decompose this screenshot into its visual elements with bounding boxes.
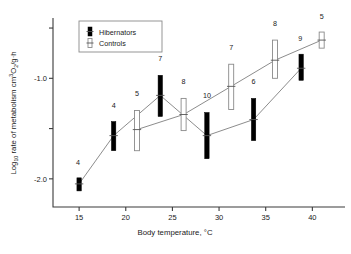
svg-text:Log10 rate of metabolism cm3O2: Log10 rate of metabolism cm3O2/g·h xyxy=(8,51,19,174)
metabolism-vs-body-temperature-chart: 152025303540-1.0-2.0 447106958785 Hibern… xyxy=(0,0,351,254)
x-axis-title-unit: °C xyxy=(204,228,213,237)
legend: Hibernators Controls xyxy=(79,21,162,52)
sample-size-label: 6 xyxy=(252,77,256,86)
figure-container: 152025303540-1.0-2.0 447106958785 Hibern… xyxy=(0,0,351,254)
y-axis-title-mid: rate of metabolism cm xyxy=(9,77,18,156)
data-bars-group xyxy=(75,32,326,191)
x-axis-title: Body temperature, °C xyxy=(137,228,212,237)
range-bar-filled xyxy=(299,54,303,80)
sample-size-label: 7 xyxy=(158,54,162,63)
legend-label-hibernators: Hibernators xyxy=(99,28,137,37)
sample-size-label: 4 xyxy=(112,101,116,110)
sample-size-label: 9 xyxy=(298,34,302,43)
x-tick-label: 40 xyxy=(308,213,316,222)
x-tick-label: 15 xyxy=(75,213,83,222)
sample-size-label: 8 xyxy=(182,77,186,86)
sample-size-label: 8 xyxy=(273,19,277,28)
range-bar-open xyxy=(134,110,139,150)
range-bar-open xyxy=(229,64,234,109)
y-axis-title-lead: Log xyxy=(9,162,18,175)
sample-size-label: 4 xyxy=(76,158,80,167)
sample-size-label: 5 xyxy=(320,12,324,21)
x-tick-label: 35 xyxy=(262,213,270,222)
range-bar-filled xyxy=(111,122,115,151)
sample-size-label: 5 xyxy=(135,89,139,98)
y-axis-title: Log10 rate of metabolism cm3O2/g·h xyxy=(8,51,19,174)
y-tick-label: -1.0 xyxy=(34,74,47,83)
range-bar-open xyxy=(273,40,278,78)
x-axis-title-text: Body temperature, xyxy=(137,228,203,237)
sample-size-label: 7 xyxy=(229,43,233,52)
range-bar-filled xyxy=(77,178,81,191)
sample-size-label: 10 xyxy=(203,91,211,100)
x-tick-label: 20 xyxy=(122,213,130,222)
connector-lines-group xyxy=(79,40,322,184)
range-bar-filled xyxy=(158,75,162,116)
x-tick-label: 30 xyxy=(215,213,223,222)
legend-label-controls: Controls xyxy=(99,39,126,48)
y-axis-title-tail: /g·h xyxy=(9,51,18,64)
y-tick-label: -2.0 xyxy=(34,175,47,184)
svg-text:Body temperature, °C: Body temperature, °C xyxy=(137,228,212,237)
x-tick-label: 25 xyxy=(168,213,176,222)
